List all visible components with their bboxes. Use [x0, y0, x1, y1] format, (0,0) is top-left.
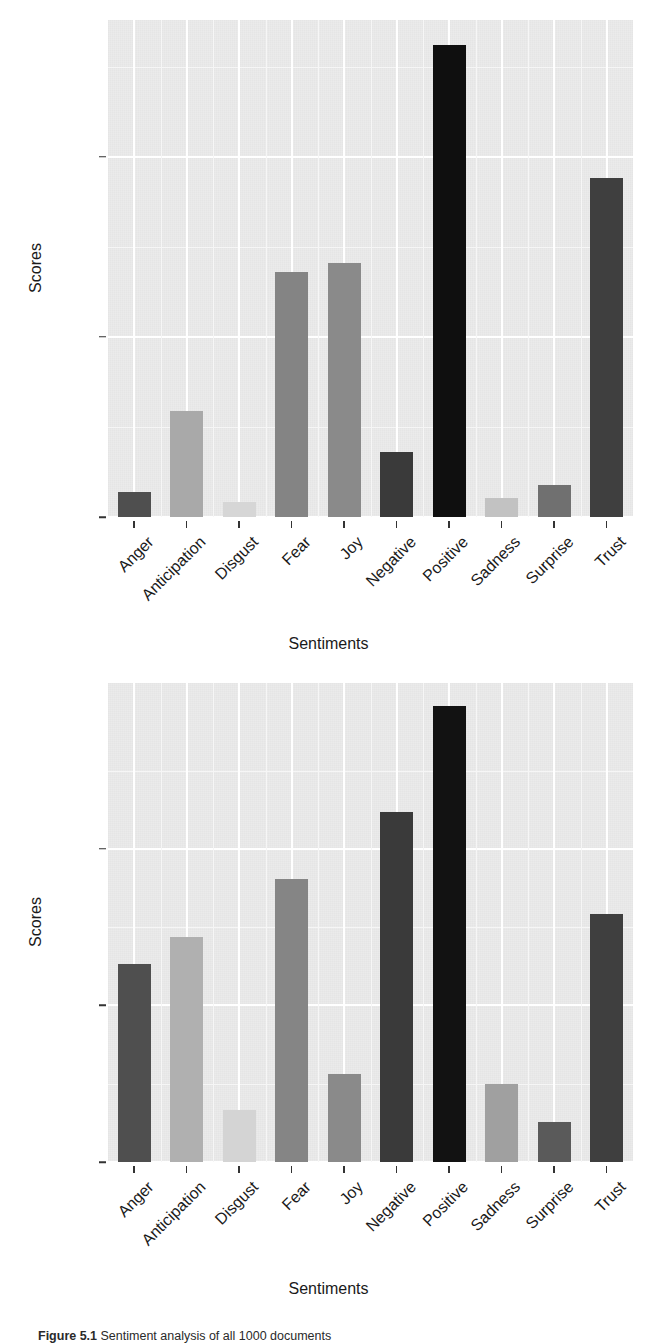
x-tick-label-sadness: Sadness — [468, 533, 524, 589]
x-tick-mark — [501, 1166, 503, 1173]
x-tick-mark — [553, 521, 555, 528]
sentiment-scores-chart-2: 0200400 AngerAnticipationDisgustFearJoyN… — [0, 660, 657, 1320]
x-tick-label-trust: Trust — [591, 1178, 628, 1215]
x-tick-mark — [186, 1166, 188, 1173]
sentiment-scores-chart-1: 05001000 AngerAnticipationDisgustFearJoy… — [0, 0, 657, 660]
x-tick-mark — [343, 1166, 345, 1173]
x-tick-label-positive: Positive — [420, 1178, 472, 1230]
x-tick-label-surprise: Surprise — [522, 533, 576, 587]
x-tick-mark — [396, 1166, 398, 1173]
x-tick-label-anger: Anger — [114, 1178, 156, 1220]
x-tick-mark — [448, 521, 450, 528]
figure-caption-text: Sentiment analysis of all 1000 documents — [101, 1329, 332, 1343]
x-tick-mark — [291, 1166, 293, 1173]
x-tick-label-fear: Fear — [278, 533, 313, 568]
x-tick-mark — [238, 1166, 240, 1173]
x-axis-title-chart-2: Sentiments — [0, 1280, 657, 1298]
x-tick-label-negative: Negative — [362, 533, 419, 590]
figure-caption: Figure 5.1 Sentiment analysis of all 100… — [38, 1329, 638, 1343]
x-tick-mark — [606, 521, 608, 528]
x-tick-mark — [291, 521, 293, 528]
x-tick-mark — [606, 1166, 608, 1173]
x-axis-chart-2: AngerAnticipationDisgustFearJoyNegativeP… — [0, 660, 657, 1320]
x-tick-mark — [186, 521, 188, 528]
x-tick-label-surprise: Surprise — [522, 1178, 576, 1232]
x-axis-title-chart-1: Sentiments — [0, 635, 657, 653]
x-tick-mark — [238, 521, 240, 528]
x-tick-label-disgust: Disgust — [212, 1178, 262, 1228]
x-tick-mark — [396, 521, 398, 528]
x-tick-label-fear: Fear — [278, 1178, 313, 1213]
figure-caption-label: Figure 5.1 — [38, 1329, 97, 1343]
x-tick-mark — [133, 521, 135, 528]
x-tick-mark — [343, 521, 345, 528]
y-axis-title-chart-2: Scores — [27, 862, 45, 982]
x-tick-label-negative: Negative — [362, 1178, 419, 1235]
figure-container: 05001000 AngerAnticipationDisgustFearJoy… — [0, 0, 657, 1343]
x-tick-mark — [501, 521, 503, 528]
x-tick-label-anger: Anger — [114, 533, 156, 575]
x-tick-label-joy: Joy — [337, 1178, 367, 1208]
x-tick-label-disgust: Disgust — [212, 533, 262, 583]
x-axis-chart-1: AngerAnticipationDisgustFearJoyNegativeP… — [0, 0, 657, 660]
x-tick-label-sadness: Sadness — [468, 1178, 524, 1234]
x-tick-label-trust: Trust — [591, 533, 628, 570]
y-axis-title-chart-1: Scores — [27, 208, 45, 328]
x-tick-label-positive: Positive — [420, 533, 472, 585]
x-tick-mark — [133, 1166, 135, 1173]
x-tick-mark — [448, 1166, 450, 1173]
x-tick-mark — [553, 1166, 555, 1173]
x-tick-label-joy: Joy — [337, 533, 367, 563]
